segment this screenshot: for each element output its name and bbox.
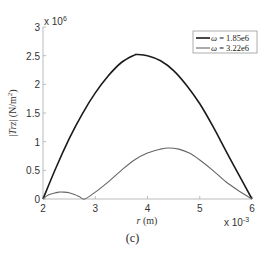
y-scale-factor: x 106 — [44, 15, 67, 27]
legend: ω = 1.85e6ω = 3.22e6 — [193, 31, 257, 53]
y-tick-label: 1 — [34, 137, 40, 148]
x-tick-label: 4 — [145, 203, 151, 214]
x-axis-label: r (m) — [137, 215, 158, 227]
y-tick-label: 1.5 — [26, 108, 40, 119]
y-tick-label: 0.5 — [26, 165, 40, 176]
series-layer — [43, 54, 252, 199]
legend-item-label: ω = 3.22e6 — [211, 43, 249, 53]
y-axis-label: |Trz| (N/m2) — [6, 89, 19, 136]
x-tick-label: 3 — [92, 203, 98, 214]
chart-canvas: 00.511.522.5323456x 106x 10-3r (m)|Trz| … — [0, 0, 265, 256]
y-tick-label: 3 — [34, 22, 40, 33]
series-line-2 — [43, 148, 252, 199]
x-tick-label: 6 — [249, 203, 255, 214]
x-scale-factor: x 10-3 — [224, 216, 249, 228]
figure-caption: (c) — [0, 231, 265, 246]
y-tick-label: 2 — [34, 79, 40, 90]
legend-item-label: ω = 1.85e6 — [211, 33, 249, 43]
x-tick-label: 2 — [40, 203, 46, 214]
y-tick-label: 2.5 — [26, 51, 40, 62]
x-tick-label: 5 — [197, 203, 203, 214]
